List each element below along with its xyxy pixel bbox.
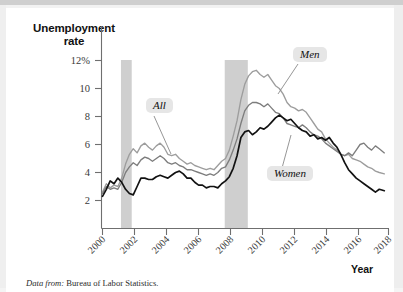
y-tick-label-8: 8 xyxy=(85,111,90,122)
chart-plot-area: 12% 10 8 6 4 2 xyxy=(6,8,394,292)
x-tick-label-2016: 2016 xyxy=(341,234,363,256)
x-tick-label-2018: 2018 xyxy=(371,234,393,256)
page-edge-right xyxy=(394,5,403,292)
source-prefix: Data from: xyxy=(26,278,64,288)
callout-women: Women xyxy=(267,166,313,181)
shaded-regions xyxy=(121,60,248,228)
callout-men: Men xyxy=(293,47,327,62)
x-tick-label-2002: 2002 xyxy=(117,234,139,256)
x-axis-title: Year xyxy=(351,263,373,275)
figure-page: Unemployment rate xyxy=(0,0,403,292)
callout-all: All xyxy=(146,98,173,113)
x-axis-ticks xyxy=(103,229,389,236)
y-axis-tick-labels: 12% 10 8 6 4 2 xyxy=(71,55,91,206)
x-tick-label-2006: 2006 xyxy=(181,234,203,256)
leader-line-all xyxy=(154,116,171,154)
x-axis-tick-labels: 2000 2002 2004 2006 2008 2010 2012 2014 … xyxy=(85,234,393,256)
y-tick-label-4: 4 xyxy=(85,167,91,178)
x-tick-label-2010: 2010 xyxy=(245,234,267,256)
leader-line-women xyxy=(282,135,291,168)
x-tick-label-2008: 2008 xyxy=(213,234,235,256)
recession-band-2001 xyxy=(121,60,132,228)
y-tick-label-2: 2 xyxy=(85,195,90,206)
x-tick-label-2004: 2004 xyxy=(149,234,171,256)
x-tick-label-2012: 2012 xyxy=(277,234,299,256)
source-note: Data from: Bureau of Labor Statistics. xyxy=(26,278,158,288)
y-tick-label-6: 6 xyxy=(85,139,90,150)
x-tick-label-2014: 2014 xyxy=(309,234,331,256)
y-tick-label-12: 12% xyxy=(71,55,91,66)
x-tick-label-2000: 2000 xyxy=(85,234,107,256)
source-text: Bureau of Labor Statistics. xyxy=(66,278,158,288)
unemployment-rate-chart: Unemployment rate xyxy=(6,8,394,292)
y-tick-label-10: 10 xyxy=(80,83,91,94)
y-axis-ticks xyxy=(95,61,102,201)
leader-line-men xyxy=(278,64,298,94)
